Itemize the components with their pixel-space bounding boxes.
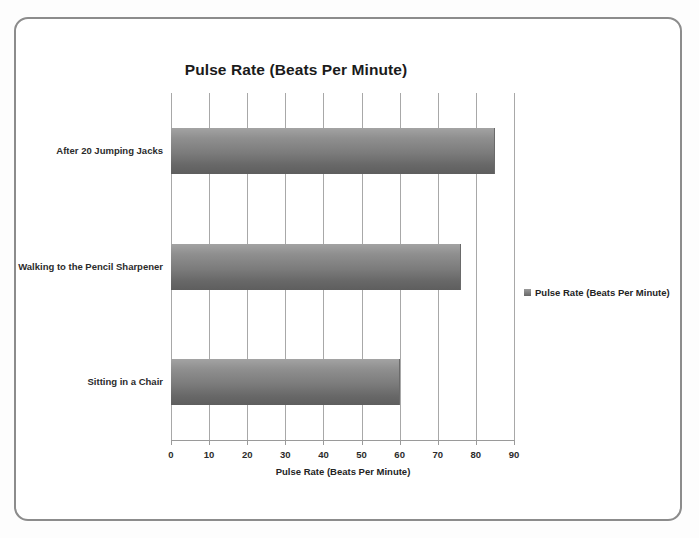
x-axis-tick [362,440,363,445]
bar-chart: Pulse Rate (Beats Per Minute) 0102030405… [16,19,680,519]
x-axis-tick [400,440,401,445]
x-axis-tick-label: 90 [494,449,534,460]
chart-title: Pulse Rate (Beats Per Minute) [16,61,576,79]
x-gridline [514,93,515,440]
x-axis-tick-label: 60 [380,449,420,460]
x-axis-tick-label: 0 [151,449,191,460]
x-axis-tick-label: 70 [418,449,458,460]
x-axis-tick-label: 20 [227,449,267,460]
x-axis-tick [285,440,286,445]
x-axis-tick [323,440,324,445]
x-axis-tick [476,440,477,445]
bar-3[interactable] [171,359,400,405]
legend-swatch-icon [524,289,531,296]
x-axis-tick [438,440,439,445]
x-axis-tick-label: 40 [303,449,343,460]
category-label-1: After 20 Jumping Jacks [56,145,163,156]
x-axis-tick [247,440,248,445]
x-axis-line [171,440,515,441]
x-axis-tick [514,440,515,445]
plot-area: 0102030405060708090After 20 Jumping Jack… [171,93,514,440]
bar-1[interactable] [171,128,495,174]
chart-legend[interactable]: Pulse Rate (Beats Per Minute) [524,287,670,298]
category-label-2: Walking to the Pencil Sharpener [18,261,163,272]
x-axis-title: Pulse Rate (Beats Per Minute) [171,466,515,477]
x-axis-tick [171,440,172,445]
bar-2[interactable] [171,244,461,290]
x-axis-tick [209,440,210,445]
x-axis-tick-label: 30 [265,449,305,460]
x-axis-tick-label: 80 [456,449,496,460]
category-label-3: Sitting in a Chair [88,376,163,387]
scanned-page-canvas: Pulse Rate (Beats Per Minute) 0102030405… [0,0,699,538]
x-axis-tick-label: 10 [189,449,229,460]
x-axis-tick-label: 50 [342,449,382,460]
legend-entry-label: Pulse Rate (Beats Per Minute) [535,287,670,298]
